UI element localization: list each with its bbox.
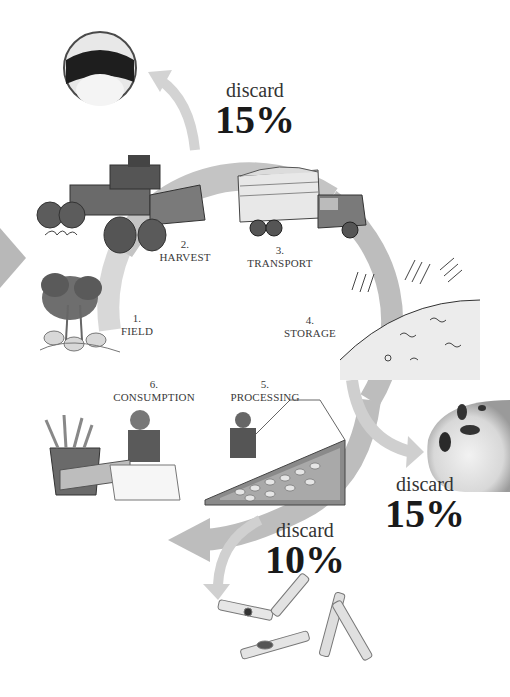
processing-line-illustration [205,400,345,505]
potato-supply-chain-diagram: 2. HARVEST 3. TRANSPORT 1. FIELD 4. STOR… [0,0,510,697]
stage-name: PROCESSING [230,391,299,403]
stage-label-consumption: 6. CONSUMPTION [104,378,204,404]
stage-number: 5. [220,378,310,391]
stage-label-field: 1. FIELD [112,312,162,338]
stage-label-transport: 3. TRANSPORT [240,244,320,270]
discard-callout-storage: discard 15% [370,474,480,534]
discard-callout-harvest: discard 15% [200,80,310,140]
discard-arrow-harvest [148,70,195,150]
stage-number: 3. [240,244,320,257]
truck-illustration [238,167,366,238]
bruised-potato-image [64,32,136,106]
consumption-illustration [46,410,180,500]
stage-name: FIELD [121,325,153,337]
stage-number: 4. [275,314,345,327]
stage-number: 2. [150,238,220,251]
stage-label-storage: 4. STORAGE [275,314,345,340]
stage-name: TRANSPORT [247,257,312,269]
defective-fries-image [218,573,373,661]
discard-percent: 10% [250,540,360,580]
stage-number: 1. [112,312,162,325]
stage-name: STORAGE [284,327,336,339]
stage-label-harvest: 2. HARVEST [150,238,220,264]
discard-percent: 15% [370,494,480,534]
stage-name: HARVEST [159,251,210,263]
stage-number: 6. [104,378,204,391]
storage-pile-illustration [340,258,480,380]
discard-callout-processing: discard 10% [250,520,360,580]
stage-name: CONSUMPTION [113,391,195,403]
left-entry-arrow-icon [0,228,26,288]
discard-percent: 15% [200,100,310,140]
stage-label-processing: 5. PROCESSING [220,378,310,404]
